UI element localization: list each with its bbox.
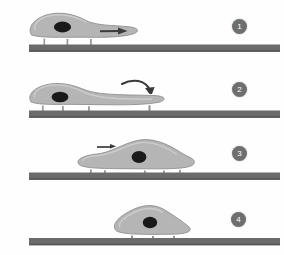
- panel-badge-4: 4: [231, 212, 246, 227]
- substrate-bar-shadow-2: [29, 116, 280, 118]
- nucleus-4: [143, 217, 157, 229]
- substrate-bar-shadow-4: [29, 244, 280, 246]
- panel-badge-2: 2: [232, 82, 247, 97]
- panel-badge-1: 1: [232, 19, 247, 34]
- nucleus-2: [52, 92, 69, 102]
- nucleus-3: [132, 151, 147, 163]
- nucleus-1: [54, 22, 71, 33]
- panel-badge-3: 3: [232, 146, 247, 161]
- substrate-bar-shadow-3: [29, 178, 280, 180]
- cell-migration-figure: 1 2: [0, 0, 284, 255]
- substrate-bar-shadow-1: [29, 50, 280, 52]
